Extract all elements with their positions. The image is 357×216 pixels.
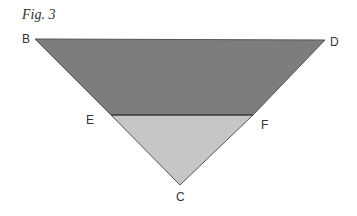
label-e: E bbox=[86, 113, 94, 127]
triangle-region-efc bbox=[111, 115, 253, 185]
label-d: D bbox=[330, 35, 339, 49]
triangle-diagram: B D E F C bbox=[0, 0, 357, 216]
label-b: B bbox=[22, 32, 30, 46]
trapezoid-region-bdfe bbox=[35, 39, 325, 115]
label-c: C bbox=[176, 190, 185, 204]
label-f: F bbox=[261, 118, 268, 132]
